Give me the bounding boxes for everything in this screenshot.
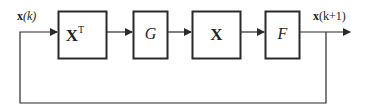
block-diagram: XT G X F x(k) x(k+1) <box>0 0 368 109</box>
input-label: x(k) <box>17 9 36 23</box>
output-label: x(k+1) <box>313 9 346 23</box>
block-x-label: X <box>210 25 223 44</box>
block-g-label: G <box>145 25 157 42</box>
block-f-label: F <box>277 25 288 42</box>
